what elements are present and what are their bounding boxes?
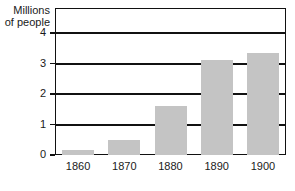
bar-1860: [62, 150, 94, 155]
bar-1880: [155, 106, 187, 155]
y-tick-mark-2: [50, 93, 55, 95]
x-tick-label-1900: 1900: [239, 160, 287, 172]
x-tick-label-1880: 1880: [147, 160, 195, 172]
bar-1890: [201, 60, 233, 155]
bar-1870: [108, 140, 140, 155]
x-tick-label-1860: 1860: [54, 160, 102, 172]
y-tick-mark-4: [50, 32, 55, 34]
x-tick-label-1890: 1890: [193, 160, 241, 172]
bar-chart: Millions of people 01234 186018701880189…: [0, 0, 295, 191]
y-tick-label-1: 1: [0, 119, 46, 130]
y-axis-title: Millions of people: [0, 4, 50, 28]
y-tick-mark-0: [50, 154, 55, 156]
y-tick-mark-1: [50, 124, 55, 126]
bar-1900: [247, 53, 279, 155]
x-tick-label-1870: 1870: [100, 160, 148, 172]
gridline-4: [55, 32, 286, 34]
y-tick-label-4: 4: [0, 27, 46, 38]
y-tick-label-3: 3: [0, 58, 46, 69]
y-tick-label-2: 2: [0, 88, 46, 99]
y-tick-label-0: 0: [0, 149, 46, 160]
y-tick-mark-3: [50, 63, 55, 65]
